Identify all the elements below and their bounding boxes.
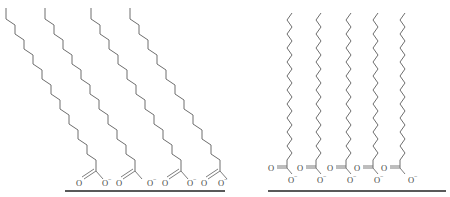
left-panel: O O − O O − O O − — [6, 8, 228, 191]
upright-chain-5: O O − — [381, 13, 418, 185]
alkyl-chain — [130, 8, 220, 171]
oxygen-left: O — [116, 178, 122, 188]
oxygen-double: O — [354, 163, 360, 173]
negative-charge: − — [108, 176, 112, 182]
upright-chain-3: O O − — [327, 13, 357, 185]
negative-charge: − — [380, 173, 384, 179]
oxygen-double: O — [381, 163, 387, 173]
c-o-single-bond — [287, 168, 292, 174]
alkyl-chain — [287, 13, 292, 168]
alkyl-chain — [6, 8, 96, 171]
negative-charge: − — [414, 173, 418, 179]
oxygen-left: O — [76, 178, 82, 188]
negative-charge: − — [224, 176, 228, 182]
alkyl-chain — [346, 13, 351, 168]
negative-charge: − — [193, 176, 197, 182]
c-o-single-bond — [135, 171, 142, 179]
oxygen-left: O — [162, 178, 168, 188]
negative-charge: − — [353, 173, 357, 179]
upright-chain-4: O O − — [354, 13, 384, 185]
oxygen-double: O — [327, 163, 333, 173]
c-o-single-bond — [346, 168, 351, 174]
alkyl-chain — [373, 13, 378, 168]
upright-chain-2: O O − — [297, 13, 327, 185]
tilted-chain-4: O O − — [130, 8, 228, 188]
alkyl-chain — [45, 8, 135, 171]
negative-charge: − — [323, 173, 327, 179]
fatty-acid-surface-diagram: O O − O O − O O − — [0, 0, 450, 197]
right-panel: O O − O O − O O − — [268, 13, 446, 191]
alkyl-chain — [91, 8, 181, 171]
c-o-single-bond — [373, 168, 378, 174]
negative-charge: − — [153, 176, 157, 182]
c-o-single-bond — [316, 168, 321, 174]
upright-chain-1: O O − — [268, 13, 298, 185]
alkyl-chain — [400, 13, 405, 168]
oxygen-left: O — [201, 178, 207, 188]
c-o-single-bond — [400, 168, 405, 174]
alkyl-chain — [316, 13, 321, 168]
oxygen-double: O — [268, 163, 274, 173]
negative-charge: − — [294, 173, 298, 179]
oxygen-double: O — [297, 163, 303, 173]
